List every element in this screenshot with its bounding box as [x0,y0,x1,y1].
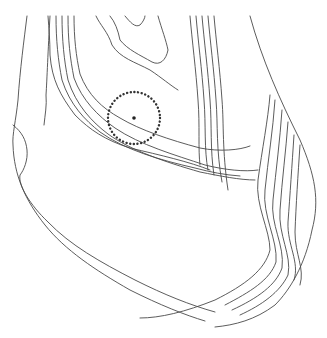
contour-line [232,110,282,310]
topographic-contour-map[interactable] [0,0,327,338]
contour-line [225,100,276,305]
contour-line [240,122,289,315]
location-point-icon[interactable] [132,116,136,120]
contour-line [110,16,168,63]
contour-line [295,145,301,285]
contour-line [68,16,258,171]
contour-line [288,135,296,280]
contour-layer [0,0,327,338]
contour-line [13,16,205,321]
contour-line [62,16,255,180]
contour-line [13,125,215,312]
contour-line [48,16,210,170]
contour-line [125,16,145,26]
location-marker[interactable] [108,92,160,144]
contour-lines [13,16,316,327]
